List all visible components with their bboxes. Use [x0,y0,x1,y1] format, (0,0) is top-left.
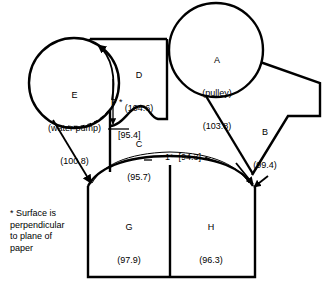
callout-b-value: (99.4) [236,160,294,171]
arch-dimension-label: 1* [94.3] [152,152,214,163]
technical-diagram: A (pulley) (103.8) E (water pump) (100.8… [0,0,334,293]
footnote-text: * Surface is perpendicular to plane of p… [10,208,104,254]
callout-g-value: (97.9) [100,255,158,266]
callout-a-name: (pulley) [186,88,248,99]
callout-b-letter: B [236,127,294,138]
callout-g-letter: G [100,222,158,233]
callout-label-h: H (96.3) [182,200,240,288]
callout-c-letter: C [110,139,168,150]
callout-h-letter: H [182,222,240,233]
callout-label-b: B (99.4) [236,105,294,193]
callout-h-value: (96.3) [182,255,240,266]
callout-c-value: (95.7) [110,172,168,183]
callout-f-letter: F * [111,97,162,108]
callout-label-g: G (97.9) [100,200,158,288]
callout-a-letter: A [186,55,248,66]
